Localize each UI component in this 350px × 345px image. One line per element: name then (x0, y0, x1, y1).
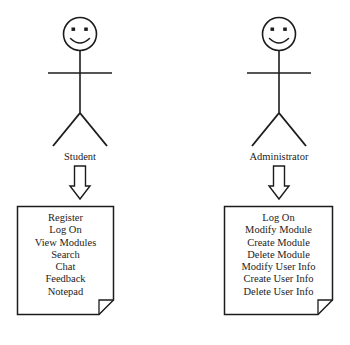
note-item: Delete Module (224, 249, 333, 261)
note-item: Chat (17, 261, 114, 273)
actor-label-student: Student (30, 152, 130, 163)
note-administrator-list: Log On Modify Module Create Module Delet… (224, 212, 333, 298)
actor-eye-right-icon (283, 28, 287, 31)
actor-leg-left (53, 113, 80, 146)
actor-head-icon (64, 18, 97, 51)
actor-eye-left-icon (72, 28, 76, 31)
note-item: Create Module (224, 237, 333, 249)
actor-eye-right-icon (84, 28, 88, 31)
actor-smile-icon (270, 39, 289, 44)
actor-administrator[interactable] (247, 18, 311, 147)
actor-label-administrator: Administrator (229, 152, 329, 163)
note-item: Register (17, 212, 114, 224)
note-item: Delete User Info (224, 286, 333, 298)
note-item: Notepad (17, 286, 114, 298)
note-item: Log On (17, 224, 114, 236)
note-item: Feedback (17, 273, 114, 285)
note-item: Search (17, 249, 114, 261)
note-item: Modify Module (224, 224, 333, 236)
actor-eye-left-icon (271, 28, 275, 31)
note-item: Create User Info (224, 273, 333, 285)
actor-leg-right (279, 113, 306, 146)
note-item: View Modules (17, 237, 114, 249)
note-item: Log On (224, 212, 333, 224)
actor-student[interactable] (48, 18, 112, 147)
actor-smile-icon (71, 39, 90, 44)
actor-leg-left (252, 113, 279, 146)
arrow-student-to-note-icon (70, 166, 90, 199)
actor-leg-right (80, 113, 107, 146)
note-student-list: Register Log On View Modules Search Chat… (17, 212, 114, 298)
arrow-administrator-to-note-icon (269, 166, 289, 199)
note-item: Modify User Info (224, 261, 333, 273)
actor-head-icon (263, 18, 296, 51)
